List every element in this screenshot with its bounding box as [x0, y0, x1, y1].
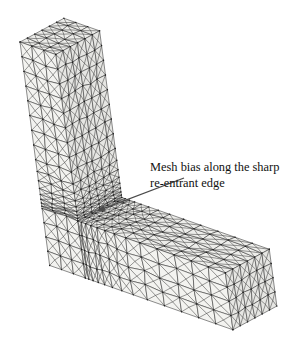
annotation-line-1: Mesh bias along the sharp — [150, 160, 296, 176]
mesh-figure: Mesh bias along the sharp re-entrant edg… — [0, 0, 296, 346]
annotation-label: Mesh bias along the sharp re-entrant edg… — [150, 160, 296, 191]
annotation-line-2: re-entrant edge — [150, 176, 296, 192]
